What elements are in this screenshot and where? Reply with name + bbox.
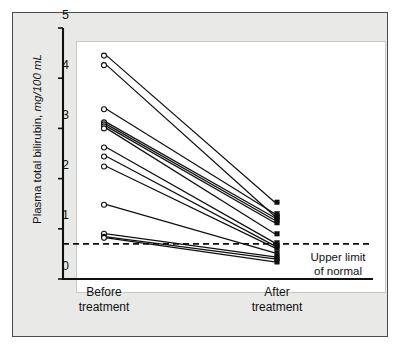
y-tick-label: 1 (47, 209, 69, 222)
y-axis-title: Plasma total bilirubin, mg/100 mL (31, 19, 43, 259)
y-tick-label: 0 (47, 260, 69, 273)
figure-panel: Plasma total bilirubin, mg/100 mL 012345… (12, 12, 388, 337)
x-tick-label: Beforetreatment (54, 285, 154, 314)
y-tick-label: 5 (47, 9, 69, 22)
y-tick-label: 4 (47, 59, 69, 72)
upper-limit-annotation: Upper limit of normal (293, 250, 383, 279)
y-tick-label: 2 (47, 159, 69, 172)
y-axis-title-units: mg/100 mL (31, 54, 43, 112)
x-tick-label-line-1: After (227, 285, 327, 300)
upper-limit-line-2: of normal (293, 264, 383, 278)
y-axis-title-text: Plasma total bilirubin, (31, 115, 43, 224)
x-tick-label-line-1: Before (54, 285, 154, 300)
x-tick-label: Aftertreatment (227, 285, 327, 314)
upper-limit-line-1: Upper limit (293, 250, 383, 264)
x-tick-label-line-2: treatment (227, 300, 327, 315)
y-tick-label: 3 (47, 109, 69, 122)
x-tick-label-line-2: treatment (54, 300, 154, 315)
figure-root: Plasma total bilirubin, mg/100 mL 012345… (0, 0, 400, 349)
